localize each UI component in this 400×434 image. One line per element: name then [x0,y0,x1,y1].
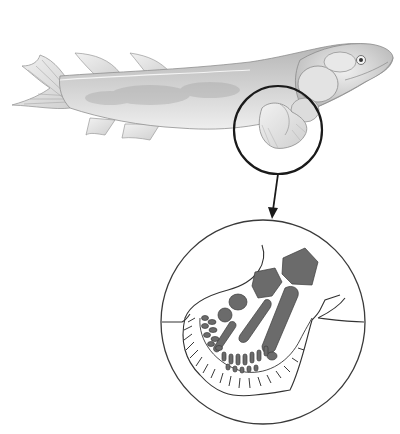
fish [12,44,393,149]
fish-fin-illustration [0,0,400,434]
anal-fin [86,118,115,135]
arrow-down-icon [268,207,278,219]
callout-arrow-shaft [273,174,278,210]
